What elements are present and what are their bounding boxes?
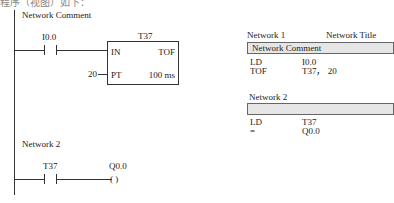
rung-wire	[15, 179, 44, 180]
stl-network1-title: Network 1	[247, 30, 285, 40]
timer-type: TOF	[158, 47, 175, 57]
stl-network1-network-title: Network Title	[326, 30, 376, 40]
pt-wire	[98, 74, 107, 75]
coil-q0-0[interactable]: ( )	[110, 174, 118, 184]
rung-wire	[57, 179, 112, 180]
ladder-network2-title: Network 2	[22, 139, 60, 149]
contact-left-bar	[44, 174, 45, 184]
power-rail	[14, 10, 15, 195]
ladder-network1-comment: Network Comment	[22, 10, 91, 20]
contact-t37-label: T37	[43, 161, 58, 171]
cropped-caption: 程序（视图）如下：	[0, 0, 90, 9]
rung-wire	[15, 50, 44, 51]
coil-q0-0-label: Q0.0	[109, 161, 127, 171]
stl-operand: T37， 20	[302, 66, 337, 76]
contact-i0-0-label: I0.0	[42, 32, 56, 42]
stl-network1-comment: Network Comment	[252, 43, 321, 53]
rung-wire	[57, 50, 107, 51]
stl-network1-comment-bar[interactable]: Network Comment	[247, 42, 394, 54]
timer-resolution: 100 ms	[149, 70, 175, 80]
stl-network2-title: Network 2	[249, 92, 287, 102]
timer-pt-value: 20	[88, 69, 97, 79]
timer-in-label: IN	[111, 47, 121, 57]
stl-operand: Q0.0	[302, 126, 320, 136]
stl-network2-comment-bar[interactable]	[247, 103, 394, 115]
timer-name: T37	[138, 31, 153, 41]
stl-op: =	[250, 126, 255, 136]
timer-pt-label: PT	[111, 70, 122, 80]
contact-left-bar	[44, 45, 45, 55]
timer-tof-block[interactable]: IN TOF PT 100 ms	[107, 41, 179, 85]
stl-op: TOF	[250, 66, 267, 76]
